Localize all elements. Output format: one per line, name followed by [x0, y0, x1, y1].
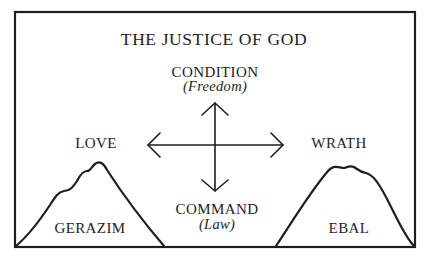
four-way-arrow-icon [148, 103, 283, 191]
label-love: LOVE [60, 136, 132, 151]
label-ebal: EBAL [314, 221, 384, 236]
justice-of-god-diagram: THE JUSTICE OF GOD CONDITION (Freedom) L… [0, 0, 427, 260]
label-law: (Law) [157, 217, 277, 232]
label-freedom: (Freedom) [155, 79, 275, 94]
label-gerazim: GERAZIM [40, 221, 140, 236]
diagram-title: THE JUSTICE OF GOD [100, 31, 328, 49]
label-command: COMMAND [157, 202, 277, 217]
label-wrath: WRATH [298, 136, 380, 151]
